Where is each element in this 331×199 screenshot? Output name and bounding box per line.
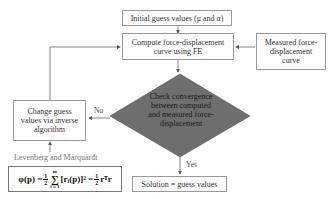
yes-label: Yes: [186, 160, 197, 169]
objective-formula: φ(p) = 12 m∑i = 1 [rᵢ(p)]² = 12 rᵀr: [8, 166, 122, 192]
measured-text-2: displacement: [270, 47, 312, 56]
change-text-2: values via inverse: [21, 116, 78, 125]
initial-guess-text: Initial guess values (μ and α): [131, 14, 224, 23]
algorithm-label: Levenberg and Marquardt: [14, 153, 97, 162]
measured-curve-box: Measured force- displacement curve: [256, 33, 326, 70]
compute-text-1: Compute force-displacement: [132, 38, 225, 47]
solution-box: Solution = guess values: [132, 176, 227, 192]
measured-text-1: Measured force-: [265, 38, 318, 47]
initial-guess-box: Initial guess values (μ and α): [122, 10, 232, 26]
compute-text-2: curve using FE: [154, 47, 202, 56]
change-text-1: Change guess: [27, 107, 71, 116]
decision-text: Check convergence between computed and m…: [128, 92, 234, 128]
change-text-3: algorithm: [34, 125, 65, 134]
compute-box: Compute force-displacement curve using F…: [122, 33, 234, 60]
measured-text-3: curve: [282, 56, 300, 65]
sum-symbol: m∑i = 1: [50, 169, 59, 189]
no-label: No: [94, 106, 103, 115]
solution-text: Solution = guess values: [142, 180, 218, 189]
change-guess-box: Change guess values via inverse algorith…: [13, 100, 86, 141]
